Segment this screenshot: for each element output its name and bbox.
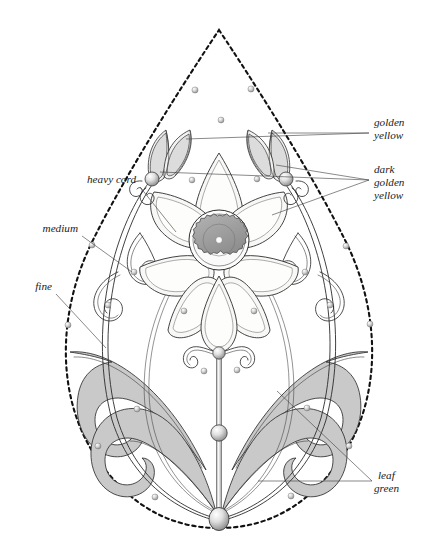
label-fine: fine — [35, 280, 52, 292]
label-medium: medium — [43, 222, 78, 234]
bead-middle — [211, 425, 227, 441]
leader-fine — [56, 294, 106, 348]
label-golden-yellow: golden yellow — [373, 116, 407, 141]
label-dark-golden-yellow: dark golden yellow — [373, 163, 407, 201]
bead-bottom — [209, 508, 229, 531]
embroidery-design-illustration: golden yellow dark golden yellow heavy c… — [0, 0, 438, 551]
label-heavy-cord: heavy cord — [87, 173, 136, 185]
bead-bud-left — [145, 172, 159, 186]
label-leaf-green: leaf green — [374, 469, 399, 494]
diagram-root: golden yellow dark golden yellow heavy c… — [0, 0, 438, 551]
gear-rosette-center — [189, 210, 249, 270]
bead-bud-right — [279, 172, 293, 186]
bead-upper — [213, 347, 225, 359]
